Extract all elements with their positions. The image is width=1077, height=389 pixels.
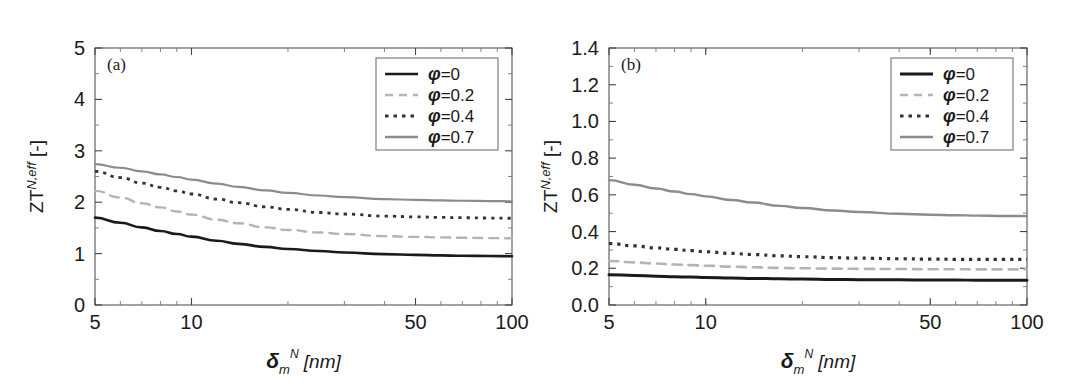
- y-tick-label: 0.8: [571, 147, 599, 169]
- x-tick-label: 100: [1010, 311, 1043, 333]
- y-tick-label: 1.2: [571, 74, 599, 96]
- curve-phi-0-4: [609, 244, 1027, 260]
- svg-text:ZTN,eff [-]: ZTN,eff [-]: [538, 140, 561, 213]
- panel-tag: (b): [621, 55, 641, 74]
- legend-label-phi-0-2: φ=0.2: [428, 85, 474, 105]
- svg-text:ZTN,eff [-]: ZTN,eff [-]: [24, 140, 47, 213]
- legend-label-phi-0-2: φ=0.2: [943, 85, 989, 105]
- y-axis-label: ZTN,eff [-]: [24, 140, 47, 213]
- legend-label-phi-0-4: φ=0.4: [943, 106, 989, 126]
- series-group: [95, 164, 512, 256]
- figure-container: 51050100012345(a)ZTN,eff [-]δmN [nm]φ=0φ…: [0, 0, 1077, 389]
- legend-label-phi-0-4: φ=0.4: [428, 106, 474, 126]
- y-tick-label: 1: [74, 243, 85, 265]
- y-tick-label: 1.0: [571, 110, 599, 132]
- legend: φ=0φ=0.2φ=0.4φ=0.7: [376, 58, 498, 150]
- y-axis-label: ZTN,eff [-]: [538, 140, 561, 213]
- panel-tag: (a): [107, 55, 126, 74]
- x-tick-label: 100: [495, 311, 528, 333]
- y-tick-label: 3: [74, 140, 85, 162]
- x-tick-label: 10: [695, 311, 717, 333]
- x-tick-label: 50: [919, 311, 941, 333]
- curve-phi-0-2: [609, 261, 1027, 269]
- chart-panel-b: 510501000.00.20.40.60.81.01.21.4(b)ZTN,e…: [538, 37, 1044, 377]
- legend-label-phi-0-7: φ=0.7: [943, 127, 989, 147]
- y-tick-label: 0: [74, 294, 85, 316]
- y-tick-label: 0.0: [571, 294, 599, 316]
- y-tick-label: 0.6: [571, 184, 599, 206]
- x-tick-label: 5: [603, 311, 614, 333]
- legend: φ=0φ=0.2φ=0.4φ=0.7: [891, 58, 1013, 150]
- y-tick-label: 4: [74, 88, 85, 110]
- y-tick-label: 5: [74, 37, 85, 59]
- legend-label-phi-0: φ=0: [428, 64, 460, 84]
- x-axis-label: δmN [nm]: [781, 347, 856, 377]
- x-tick-label: 50: [404, 311, 426, 333]
- y-tick-label: 0.4: [571, 221, 599, 243]
- legend-label-phi-0-7: φ=0.7: [428, 127, 474, 147]
- figure-svg: 51050100012345(a)ZTN,eff [-]δmN [nm]φ=0φ…: [0, 0, 1077, 389]
- legend-label-phi-0: φ=0: [943, 64, 975, 84]
- x-tick-label: 5: [89, 311, 100, 333]
- curve-phi-0-7: [95, 164, 512, 201]
- x-axis-label: δmN [nm]: [266, 347, 341, 377]
- y-tick-label: 0.2: [571, 257, 599, 279]
- y-tick-label: 1.4: [571, 37, 599, 59]
- y-tick-label: 2: [74, 191, 85, 213]
- series-group: [609, 180, 1027, 280]
- chart-panel-a: 51050100012345(a)ZTN,eff [-]δmN [nm]φ=0φ…: [24, 37, 529, 377]
- curve-phi-0: [609, 275, 1027, 281]
- curve-phi-0-7: [609, 180, 1027, 216]
- x-tick-label: 10: [180, 311, 202, 333]
